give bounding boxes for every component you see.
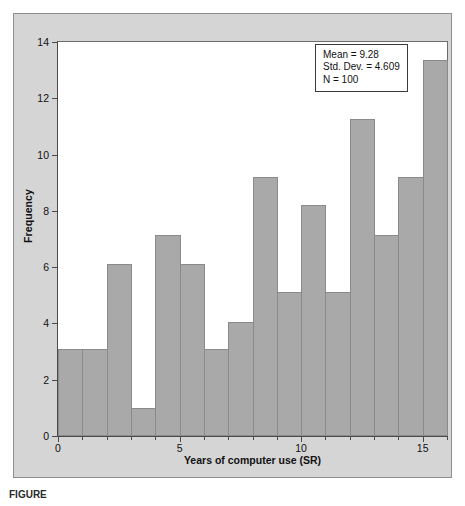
x-axis-title: Years of computer use (SR) bbox=[58, 454, 447, 466]
y-axis-tick-label: 8 bbox=[43, 205, 49, 217]
y-axis-tick bbox=[52, 436, 58, 437]
x-axis-tick-label: 5 bbox=[177, 442, 183, 454]
x-axis-tick bbox=[398, 436, 399, 440]
histogram-bar bbox=[301, 205, 326, 436]
stat-n: N = 100 bbox=[323, 74, 400, 86]
stat-std-dev: Std. Dev. = 4.609 bbox=[323, 61, 400, 73]
histogram-bar bbox=[155, 235, 180, 436]
histogram-bar bbox=[398, 177, 423, 436]
y-axis-tick bbox=[52, 98, 58, 99]
y-axis-tick bbox=[52, 211, 58, 212]
x-axis-tick-label: 15 bbox=[417, 442, 429, 454]
y-axis-tick-label: 4 bbox=[43, 317, 49, 329]
x-axis-tick bbox=[253, 436, 254, 440]
x-axis-tick bbox=[204, 436, 205, 440]
x-axis-tick bbox=[350, 436, 351, 440]
x-axis-tick-label: 10 bbox=[295, 442, 307, 454]
y-axis-tick bbox=[52, 267, 58, 268]
stat-mean: Mean = 9.28 bbox=[323, 49, 400, 61]
histogram-bar bbox=[82, 349, 107, 436]
histogram-bar bbox=[107, 264, 132, 436]
histogram-bars bbox=[58, 42, 447, 436]
x-axis-tick bbox=[325, 436, 326, 440]
x-axis-tick bbox=[107, 436, 108, 440]
histogram-bar bbox=[131, 408, 156, 436]
x-axis-tick bbox=[155, 436, 156, 440]
y-axis-tick bbox=[52, 323, 58, 324]
histogram-bar bbox=[228, 322, 253, 436]
x-axis-tick-label: 0 bbox=[55, 442, 61, 454]
statistics-box: Mean = 9.28 Std. Dev. = 4.609 N = 100 bbox=[315, 44, 408, 92]
figure-caption: FIGURE bbox=[9, 489, 47, 506]
histogram-bar bbox=[350, 119, 375, 436]
x-axis-tick bbox=[82, 436, 83, 440]
x-axis-tick bbox=[228, 436, 229, 440]
histogram-bar bbox=[204, 349, 229, 436]
y-axis-tick-label: 2 bbox=[43, 374, 49, 386]
x-axis-tick bbox=[374, 436, 375, 440]
y-axis-tick bbox=[52, 155, 58, 156]
y-axis-tick-label: 12 bbox=[37, 92, 49, 104]
y-axis-tick bbox=[52, 42, 58, 43]
y-axis-tick-label: 0 bbox=[43, 430, 49, 442]
x-axis-tick bbox=[131, 436, 132, 440]
histogram-bar bbox=[253, 177, 278, 436]
figure-panel: Frequency 02468101214 051015 Years of co… bbox=[13, 13, 452, 478]
histogram-bar bbox=[374, 235, 399, 436]
histogram-bar bbox=[58, 349, 83, 436]
y-axis-title: Frequency bbox=[22, 156, 34, 276]
y-axis-tick-label: 14 bbox=[37, 36, 49, 48]
plot-area: 02468101214 051015 bbox=[58, 41, 448, 436]
y-axis-tick-label: 10 bbox=[37, 149, 49, 161]
histogram-bar bbox=[277, 292, 302, 436]
x-axis-tick bbox=[277, 436, 278, 440]
y-axis-tick bbox=[52, 380, 58, 381]
histogram-bar bbox=[180, 264, 205, 436]
histogram-bar bbox=[423, 60, 448, 436]
histogram-bar bbox=[325, 292, 350, 436]
x-axis-tick bbox=[447, 436, 448, 440]
y-axis-tick-label: 6 bbox=[43, 261, 49, 273]
